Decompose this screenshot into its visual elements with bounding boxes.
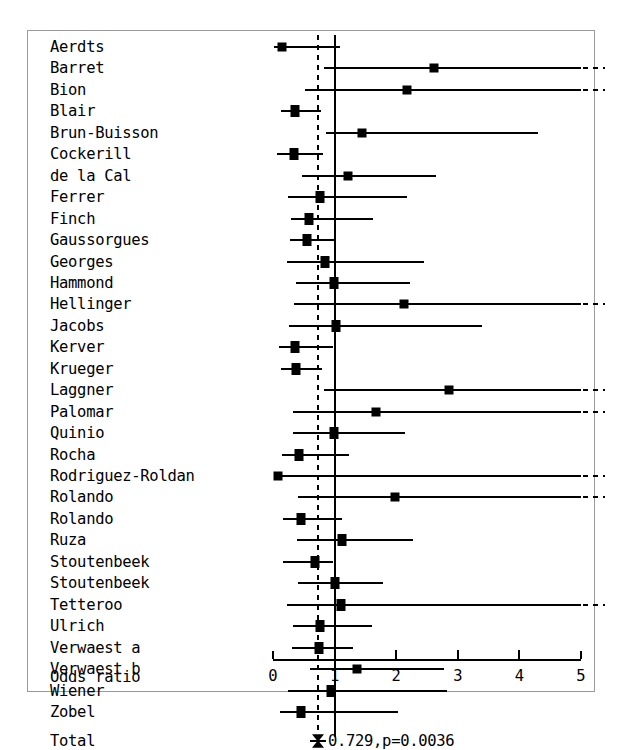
study-label: Aerdts (50, 40, 104, 55)
effect-estimate-marker (294, 449, 303, 461)
confidence-interval-line (324, 67, 581, 69)
effect-estimate-marker (289, 148, 298, 160)
confidence-interval-line (279, 346, 333, 348)
confidence-interval-line (282, 454, 349, 456)
study-label: Laggner (50, 383, 113, 398)
confidence-interval-truncation-dashes (583, 67, 605, 69)
effect-estimate-marker (296, 706, 305, 718)
effect-estimate-marker (321, 256, 330, 268)
forest-plot-figure: AerdtsBarretBionBlairBrun-BuissonCockeri… (27, 30, 595, 692)
confidence-interval-truncation-dashes (583, 89, 605, 91)
x-axis-tick (518, 650, 520, 659)
study-label: Kerver (50, 340, 104, 355)
confidence-interval-line (283, 561, 332, 563)
confidence-interval-truncation-dashes (583, 389, 605, 391)
effect-estimate-marker (352, 665, 361, 674)
x-axis-tick (457, 650, 459, 659)
study-label: Ferrer (50, 190, 104, 205)
effect-estimate-marker (291, 341, 300, 353)
total-row-label: Total (50, 734, 95, 749)
study-label: Hellinger (50, 297, 131, 312)
study-label: Verwaest a (50, 640, 140, 655)
x-axis-tick (580, 651, 582, 659)
x-axis-title: Odds ratio (50, 670, 140, 685)
x-axis-line (273, 659, 581, 661)
pooled-estimate-bar (310, 740, 326, 742)
study-label: Brun-Buisson (50, 125, 158, 140)
confidence-interval-line (297, 539, 413, 541)
confidence-interval-line (305, 89, 581, 91)
confidence-interval-line (293, 432, 406, 434)
confidence-interval-line (274, 475, 581, 477)
effect-estimate-marker (344, 171, 353, 180)
study-label: Hammond (50, 275, 113, 290)
study-label: Palomar (50, 404, 113, 419)
study-label: Cockerill (50, 147, 131, 162)
confidence-interval-line (281, 110, 321, 112)
effect-estimate-marker (297, 513, 306, 525)
confidence-interval-line (287, 261, 424, 263)
effect-estimate-marker (430, 64, 439, 73)
confidence-interval-line (291, 218, 373, 220)
study-label: Jacobs (50, 318, 104, 333)
plot-area: AerdtsBarretBionBlairBrun-BuissonCockeri… (28, 31, 594, 691)
confidence-interval-line (296, 282, 411, 284)
effect-estimate-marker (291, 363, 300, 375)
effect-estimate-marker (273, 472, 282, 481)
confidence-interval-line (281, 368, 322, 370)
x-axis-tick-label: 4 (515, 669, 524, 684)
x-axis-tick (334, 650, 336, 659)
x-axis-tick-label: 2 (392, 669, 401, 684)
confidence-interval-truncation-dashes (583, 475, 605, 477)
effect-estimate-marker (302, 234, 311, 246)
confidence-interval-line (293, 625, 372, 627)
study-label: Rolando (50, 511, 113, 526)
confidence-interval-line (298, 496, 581, 498)
effect-estimate-marker (357, 128, 366, 137)
study-label: Stoutenbeek (50, 554, 149, 569)
confidence-interval-truncation-dashes (583, 496, 605, 498)
study-label: Bion (50, 82, 86, 97)
study-label: Ulrich (50, 619, 104, 634)
x-axis-tick-label: 5 (576, 669, 585, 684)
confidence-interval-truncation-dashes (583, 303, 605, 305)
study-label: Rodriguez-Roldan (50, 469, 195, 484)
pooled-estimate-annotation: 0.729,p=0.0036 (328, 734, 454, 749)
study-label: Stoutenbeek (50, 576, 149, 591)
confidence-interval-truncation-dashes (583, 411, 605, 413)
confidence-interval-line (288, 196, 407, 198)
pooled-estimate-line (317, 35, 319, 747)
study-label: de la Cal (50, 168, 131, 183)
x-axis-tick-label: 3 (453, 669, 462, 684)
effect-estimate-marker (402, 85, 411, 94)
effect-estimate-marker (291, 105, 300, 117)
effect-estimate-marker (399, 300, 408, 309)
study-label: Rocha (50, 447, 95, 462)
study-label: Blair (50, 104, 95, 119)
confidence-interval-line (298, 582, 382, 584)
confidence-interval-line (290, 239, 336, 241)
study-label: Tetteroo (50, 597, 122, 612)
effect-estimate-marker (372, 407, 381, 416)
study-label: Zobel (50, 704, 95, 719)
study-label: Barret (50, 61, 104, 76)
effect-estimate-marker (390, 493, 399, 502)
study-label: Quinio (50, 426, 104, 441)
effect-estimate-marker (304, 213, 313, 225)
effect-estimate-marker (336, 599, 345, 611)
confidence-interval-line (288, 690, 446, 692)
study-label: Georges (50, 254, 113, 269)
study-label: Krueger (50, 361, 113, 376)
study-label: Finch (50, 211, 95, 226)
confidence-interval-line (302, 175, 436, 177)
study-label: Ruza (50, 533, 86, 548)
study-label: Gaussorgues (50, 233, 149, 248)
confidence-interval-truncation-dashes (583, 604, 605, 606)
x-axis-tick-label: 0 (268, 669, 277, 684)
confidence-interval-line (287, 604, 581, 606)
study-label: Rolando (50, 490, 113, 505)
confidence-interval-line (293, 411, 581, 413)
null-effect-line (334, 35, 336, 737)
x-axis-tick-label: 1 (330, 669, 339, 684)
x-axis-tick (395, 650, 397, 659)
